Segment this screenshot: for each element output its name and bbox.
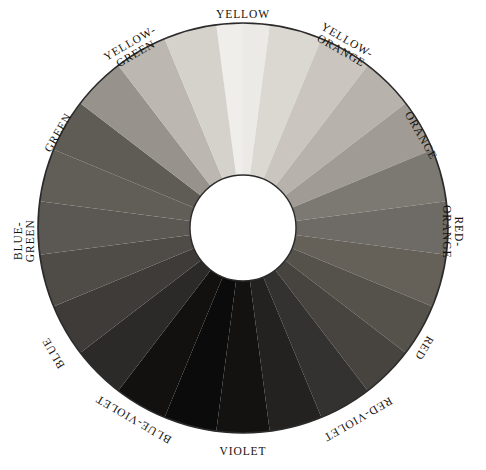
color-wheel-figure: YELLOWYELLOW-ORANGEORANGERED-ORANGEREDRE… [0,0,486,470]
color-wheel-svg [0,0,486,470]
wheel-inner-hub [190,175,296,281]
